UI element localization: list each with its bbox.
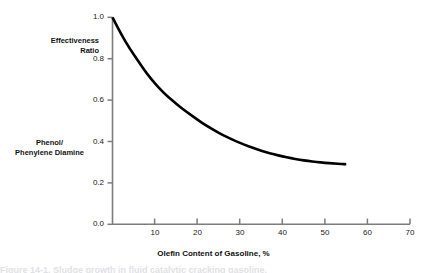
effectiveness-ratio-label-line1: Effectiveness: [0, 36, 99, 46]
x-tick-label: 60: [356, 228, 380, 237]
x-tick-label: 70: [398, 228, 422, 237]
y-tick-label: 0.2: [82, 178, 104, 187]
clipped-figure-caption: Figure 14-1. Sludge growth in fluid cata…: [0, 266, 427, 273]
x-tick-label: 30: [228, 228, 252, 237]
x-tick-label: 10: [143, 228, 167, 237]
y-tick-label: 0.8: [82, 54, 104, 63]
y-tick-label: 0.6: [82, 95, 104, 104]
y-tick-label: 0.4: [82, 137, 104, 146]
y-tick-label: 1.0: [82, 12, 104, 21]
x-tick-label: 50: [313, 228, 337, 237]
x-axis-title: Olefin Content of Gasoline, %: [0, 249, 427, 258]
x-tick-label: 20: [186, 228, 210, 237]
x-axis-ticks: [155, 219, 410, 225]
data-curve: [113, 17, 347, 164]
phenol-label-line2: Phenylene Diamine: [0, 148, 99, 158]
chart-figure: Effectiveness Ratio Phenol/ Phenylene Di…: [0, 0, 427, 273]
y-tick-label: 0.0: [82, 219, 104, 228]
x-tick-label: 40: [271, 228, 295, 237]
